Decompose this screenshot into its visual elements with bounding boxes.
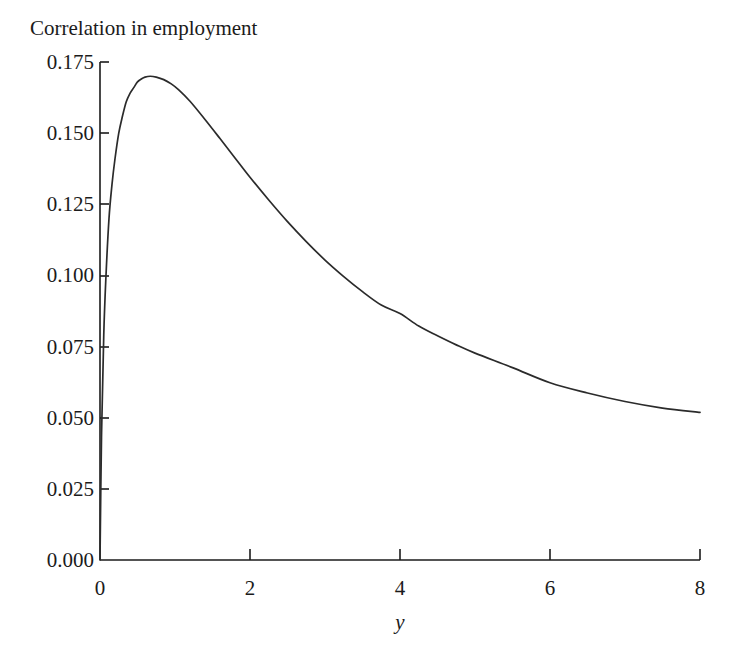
data-line-correlation-in-employment <box>100 76 700 560</box>
x-tick-marks <box>250 549 700 560</box>
chart-figure: Correlation in employment 0.175 0.150 0.… <box>0 0 731 655</box>
plot-area <box>0 0 731 655</box>
